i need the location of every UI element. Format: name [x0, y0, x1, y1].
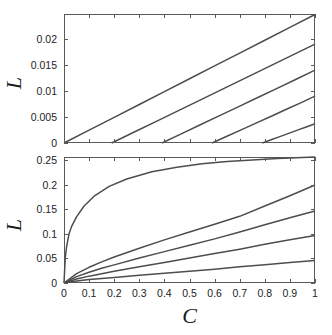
- x-tick-mark-top: [139, 157, 140, 161]
- y-tick-mark: [64, 258, 68, 259]
- y-tick-mark-right: [311, 65, 315, 66]
- x-tick-mark-top: [215, 14, 216, 18]
- x-tick-mark-top: [290, 157, 291, 161]
- y-tick-mark-right: [311, 283, 315, 284]
- plot-panel-bottom: [64, 157, 315, 283]
- y-tick-label: 0.15: [0, 203, 57, 215]
- x-tick-mark-top: [315, 14, 316, 18]
- x-tick-label: 1: [312, 287, 318, 299]
- y-tick-label: 0.02: [0, 33, 57, 45]
- data-curve: [64, 15, 315, 143]
- x-tick-mark: [89, 139, 90, 143]
- x-tick-label: 0.1: [82, 287, 97, 299]
- y-tick-mark: [64, 91, 68, 92]
- y-tick-mark: [64, 209, 68, 210]
- y-tick-mark-right: [311, 143, 315, 144]
- y-tick-label: 0.005: [0, 111, 57, 123]
- y-tick-mark-right: [311, 209, 315, 210]
- y-tick-mark: [64, 160, 68, 161]
- x-tick-mark-top: [265, 14, 266, 18]
- x-tick-mark: [164, 139, 165, 143]
- x-tick-mark: [315, 279, 316, 283]
- x-tick-mark-top: [139, 14, 140, 18]
- data-curve: [112, 44, 315, 143]
- x-tick-mark-top: [164, 14, 165, 18]
- y-tick-mark-right: [311, 91, 315, 92]
- x-tick-mark-top: [215, 157, 216, 161]
- x-tick-mark-top: [114, 14, 115, 18]
- x-tick-mark: [290, 279, 291, 283]
- x-tick-label: 0.2: [107, 287, 122, 299]
- data-curve: [64, 235, 315, 283]
- y-tick-label: 0.05: [0, 252, 57, 264]
- x-tick-mark: [139, 139, 140, 143]
- x-tick-mark: [290, 139, 291, 143]
- x-tick-mark: [114, 279, 115, 283]
- curve-group-bottom: [64, 157, 315, 283]
- x-tick-mark-top: [265, 157, 266, 161]
- x-tick-mark: [315, 139, 316, 143]
- y-tick-mark-right: [311, 234, 315, 235]
- x-tick-mark: [215, 139, 216, 143]
- x-tick-mark: [265, 279, 266, 283]
- y-tick-mark: [64, 283, 68, 284]
- y-tick-label: 0: [0, 137, 57, 149]
- x-tick-mark-top: [190, 14, 191, 18]
- x-tick-mark: [164, 279, 165, 283]
- x-tick-mark: [190, 279, 191, 283]
- y-tick-mark: [64, 185, 68, 186]
- x-tick-label: 0.4: [157, 287, 172, 299]
- x-tick-mark-top: [240, 14, 241, 18]
- x-tick-mark-top: [89, 157, 90, 161]
- x-tick-label: 0.9: [283, 287, 298, 299]
- figure-canvas: 00.0050.010.0150.02 L 00.050.10.150.20.2…: [0, 0, 332, 335]
- x-tick-mark-top: [114, 157, 115, 161]
- curve-group-top: [64, 14, 315, 143]
- plot-panel-top: [64, 14, 315, 143]
- x-tick-mark-top: [290, 14, 291, 18]
- x-axis-label: C: [64, 303, 315, 329]
- x-tick-mark-top: [89, 14, 90, 18]
- x-tick-mark: [89, 279, 90, 283]
- y-tick-mark-right: [311, 160, 315, 161]
- x-tick-label: 0.3: [132, 287, 147, 299]
- x-tick-label: 0.7: [232, 287, 247, 299]
- x-tick-mark-top: [315, 157, 316, 161]
- x-tick-mark: [114, 139, 115, 143]
- x-tick-mark: [240, 279, 241, 283]
- x-tick-mark: [215, 279, 216, 283]
- data-curve: [212, 96, 315, 143]
- x-tick-mark: [139, 279, 140, 283]
- y-tick-mark-right: [311, 39, 315, 40]
- y-tick-mark: [64, 65, 68, 66]
- x-tick-mark: [190, 139, 191, 143]
- data-curve: [64, 211, 315, 283]
- y-tick-mark: [64, 39, 68, 40]
- y-tick-mark: [64, 143, 68, 144]
- x-tick-mark-top: [190, 157, 191, 161]
- y-tick-label: 0.015: [0, 59, 57, 71]
- y-axis-label-top: L: [1, 73, 27, 93]
- y-tick-mark: [64, 234, 68, 235]
- y-tick-label: 0.2: [0, 179, 57, 191]
- x-tick-mark: [265, 139, 266, 143]
- y-tick-label: 0.25: [0, 154, 57, 166]
- x-tick-label: 0.5: [182, 287, 197, 299]
- x-tick-label: 0.8: [257, 287, 272, 299]
- y-axis-label-bottom: L: [1, 215, 27, 235]
- x-tick-label: 0.6: [207, 287, 222, 299]
- data-curve: [262, 124, 315, 143]
- y-tick-mark: [64, 117, 68, 118]
- y-tick-mark-right: [311, 258, 315, 259]
- y-tick-mark-right: [311, 185, 315, 186]
- y-tick-mark-right: [311, 117, 315, 118]
- y-tick-label: 0: [0, 277, 57, 289]
- x-tick-mark-top: [164, 157, 165, 161]
- x-tick-mark-top: [240, 157, 241, 161]
- x-tick-mark-top: [64, 14, 65, 18]
- x-tick-label: 0: [61, 287, 67, 299]
- x-tick-mark: [240, 139, 241, 143]
